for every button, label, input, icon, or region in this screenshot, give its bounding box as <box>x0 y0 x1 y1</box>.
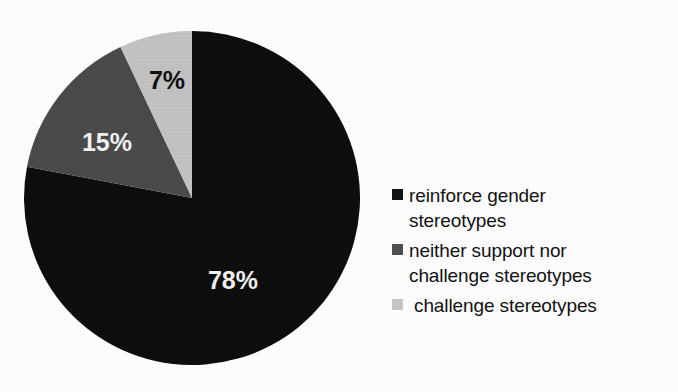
legend-item-label: challenge stereotypes <box>409 293 597 318</box>
chart-legend: reinforce gender stereotypes neither sup… <box>392 183 672 323</box>
legend-item-neither-support-nor-challenge-stereotypes[interactable]: neither support nor challenge stereotype… <box>392 238 672 288</box>
pie-svg: 78% 15% 7% <box>24 27 360 369</box>
pie-chart-figure: 78% 15% 7% reinforce gender stereotypes … <box>0 0 678 392</box>
pie-slice-value-7: 7% <box>149 66 185 94</box>
legend-square-marker-icon <box>392 299 403 310</box>
legend-square-marker-icon <box>392 244 403 255</box>
legend-square-marker-icon <box>392 189 403 200</box>
pie-plot-area: 78% 15% 7% <box>24 27 360 369</box>
legend-item-reinforce-gender-stereotypes[interactable]: reinforce gender stereotypes <box>392 183 672 233</box>
legend-item-label: reinforce gender stereotypes <box>409 183 546 233</box>
legend-item-label: neither support nor challenge stereotype… <box>409 238 592 288</box>
legend-item-challenge-stereotypes[interactable]: challenge stereotypes <box>392 293 672 318</box>
pie-slice-value-78: 78% <box>208 266 258 294</box>
pie-slice-value-15: 15% <box>82 128 132 156</box>
